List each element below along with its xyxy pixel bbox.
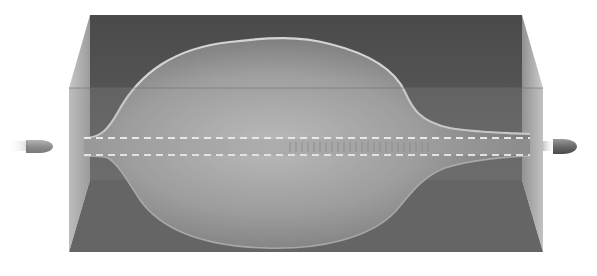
bullet-entry-motion-trail <box>8 141 28 151</box>
bullet-icon <box>26 140 53 153</box>
bullet-icon <box>553 139 577 154</box>
bullet-exiting <box>543 139 577 154</box>
ballistic-gel-diagram <box>0 0 597 276</box>
bullet-entering <box>8 140 53 153</box>
block-front-face <box>69 88 543 252</box>
permanent-wound-channel <box>84 138 530 155</box>
